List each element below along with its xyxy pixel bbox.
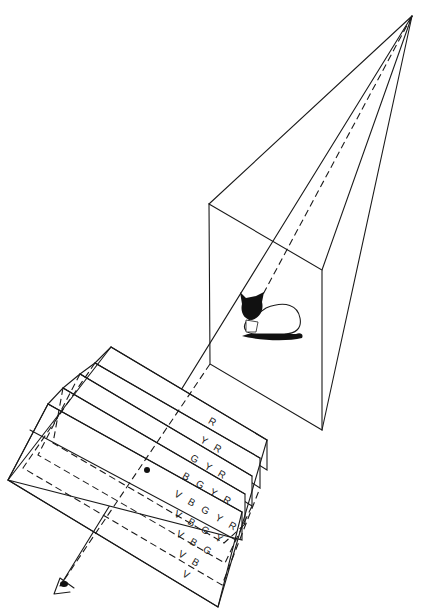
filter-slabs xyxy=(8,347,267,607)
viewing-pyramid-diagram xyxy=(0,0,421,616)
eye-icon xyxy=(54,578,74,594)
focus-point xyxy=(144,467,150,473)
